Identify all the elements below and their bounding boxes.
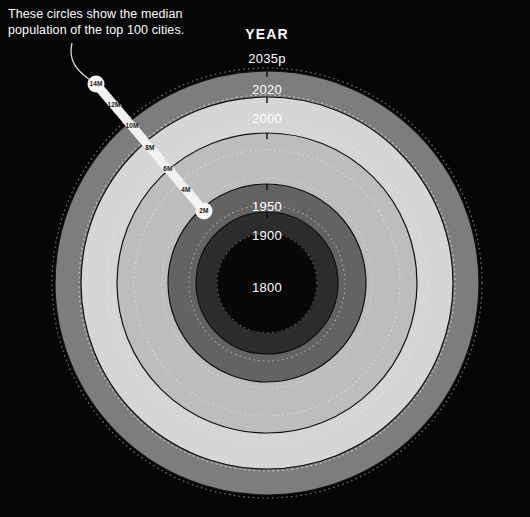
year-label-2035p: 2035p (248, 51, 286, 66)
year-label-1950: 1950 (252, 199, 282, 214)
year-label-2000: 2000 (252, 111, 282, 126)
scale-tick-10m: 10M (125, 122, 138, 129)
scale-tick-6m: 6M (163, 165, 172, 172)
chart-canvas: YEAR 2035p 2020 2000 1950 1900 1800 14M … (0, 0, 530, 517)
annotation-caption: These circles show the median population… (8, 6, 223, 38)
annotation-line-2: population of the top 100 cities. (8, 22, 223, 38)
scale-tick-14m: 14M (89, 80, 102, 87)
year-label-2020: 2020 (252, 82, 282, 97)
year-axis-title: YEAR (245, 26, 289, 42)
concentric-circles-chart: YEAR 2035p 2020 2000 1950 1900 1800 14M … (0, 0, 530, 517)
annotation-leader-line (71, 43, 90, 80)
annotation-line-1: These circles show the median (8, 6, 223, 22)
scale-tick-4m: 4M (181, 186, 190, 193)
year-label-1800: 1800 (252, 280, 282, 295)
scale-tick-2m: 2M (199, 207, 208, 214)
scale-tick-12m: 12M (107, 101, 120, 108)
year-label-1900: 1900 (252, 228, 282, 243)
scale-tick-8m: 8M (145, 144, 154, 151)
